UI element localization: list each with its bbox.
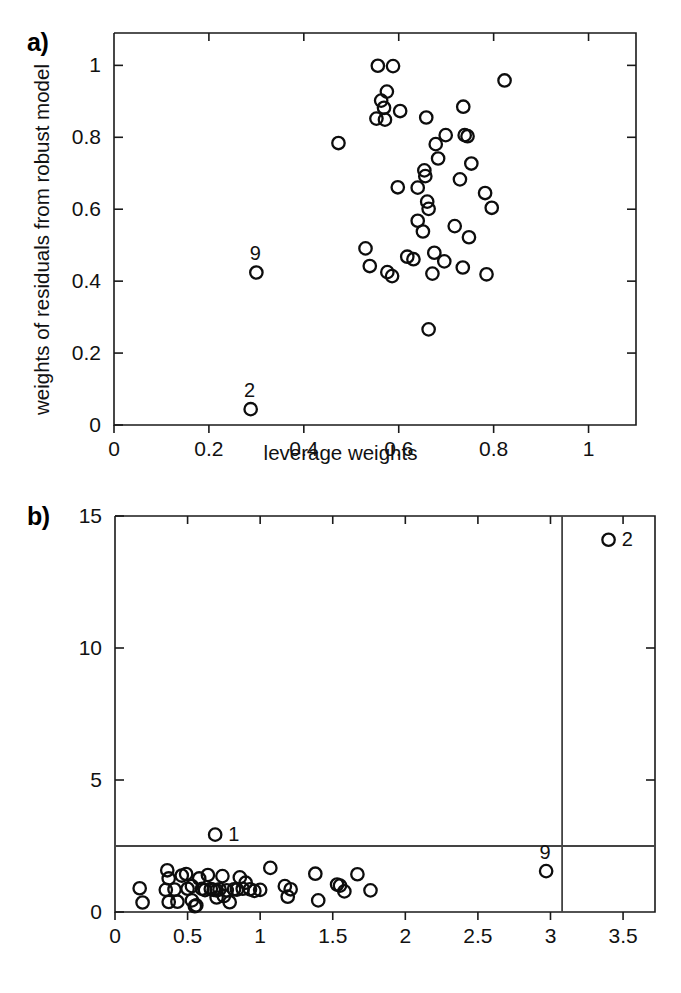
- figure-container: a) 00.20.40.60.8100.20.40.60.81 92 weigh…: [0, 0, 681, 993]
- scatter-point: [457, 101, 469, 113]
- scatter-point: [426, 267, 438, 279]
- y-tick-label: 1: [89, 53, 101, 76]
- x-tick-label: 2.5: [463, 924, 492, 947]
- panel-a-axes: [114, 33, 636, 425]
- scatter-point: [168, 883, 180, 895]
- scatter-point: [133, 882, 145, 894]
- scatter-point: [449, 220, 461, 232]
- scatter-point: [486, 202, 498, 214]
- scatter-point: [171, 896, 183, 908]
- scatter-point: [430, 138, 442, 150]
- panel-b: b) 00.511.522.533.5051015 219 standardiz…: [0, 470, 681, 993]
- y-tick-label: 0.8: [72, 125, 101, 148]
- scatter-point: [438, 255, 450, 267]
- x-tick-label: 0: [109, 924, 121, 947]
- panel-b-ticks: [115, 516, 655, 920]
- panel-a-tick-labels: 00.20.40.60.8100.20.40.60.81: [72, 53, 595, 460]
- scatter-point: [602, 534, 614, 546]
- scatter-point: [209, 828, 221, 840]
- y-tick-label: 5: [90, 768, 102, 791]
- y-tick-label: 0.2: [72, 341, 101, 364]
- scatter-point: [372, 60, 384, 72]
- x-tick-label: 1: [254, 924, 266, 947]
- scatter-point: [136, 896, 148, 908]
- point-label: 9: [540, 841, 551, 863]
- x-tick-label: 3: [545, 924, 557, 947]
- scatter-point: [412, 181, 424, 193]
- scatter-point: [381, 85, 393, 97]
- scatter-point: [394, 105, 406, 117]
- panel-a-y-axis-title: weights of residuals from robust model: [30, 64, 54, 415]
- y-tick-label: 0: [89, 413, 101, 436]
- scatter-point: [417, 225, 429, 237]
- scatter-point: [216, 870, 228, 882]
- scatter-point: [379, 113, 391, 125]
- scatter-point: [359, 242, 371, 254]
- panel-a-x-axis-title: leverage weights: [0, 441, 681, 465]
- scatter-point: [364, 260, 376, 272]
- panel-b-point-labels: 219: [228, 528, 633, 863]
- scatter-point: [332, 137, 344, 149]
- panel-b-plot: 00.511.522.533.5051015 219: [0, 470, 681, 993]
- point-label: 2: [244, 379, 255, 401]
- scatter-point: [457, 261, 469, 273]
- scatter-point: [387, 60, 399, 72]
- scatter-point: [351, 868, 363, 880]
- panel-b-axes: [115, 516, 655, 912]
- panel-a: a) 00.20.40.60.8100.20.40.60.81 92 weigh…: [0, 0, 681, 470]
- panel-a-plot: 00.20.40.60.8100.20.40.60.81 92: [0, 0, 681, 470]
- y-tick-label: 15: [79, 504, 102, 527]
- scatter-point: [463, 231, 475, 243]
- scatter-point: [244, 403, 256, 415]
- panel-b-reference-lines: [115, 516, 655, 912]
- x-tick-label: 2: [399, 924, 411, 947]
- y-tick-label: 10: [79, 636, 102, 659]
- x-tick-label: 0.5: [173, 924, 202, 947]
- panel-a-data-points: [244, 60, 510, 416]
- scatter-point: [422, 323, 434, 335]
- x-tick-label: 3.5: [608, 924, 637, 947]
- scatter-point: [454, 173, 466, 185]
- point-label: 9: [250, 242, 261, 264]
- x-tick-label: 1.5: [318, 924, 347, 947]
- scatter-point: [420, 111, 432, 123]
- scatter-point: [392, 181, 404, 193]
- panel-a-ticks: [114, 33, 636, 433]
- scatter-point: [312, 894, 324, 906]
- scatter-point: [498, 74, 510, 86]
- scatter-point: [264, 862, 276, 874]
- point-label: 1: [228, 823, 239, 845]
- scatter-point: [364, 884, 376, 896]
- y-tick-label: 0: [90, 900, 102, 923]
- scatter-point: [465, 157, 477, 169]
- scatter-point: [250, 266, 262, 278]
- scatter-point: [480, 268, 492, 280]
- point-label: 2: [622, 528, 633, 550]
- scatter-point: [309, 868, 321, 880]
- y-tick-label: 0.4: [72, 269, 102, 292]
- y-tick-label: 0.6: [72, 197, 101, 220]
- scatter-point: [432, 152, 444, 164]
- scatter-point: [540, 865, 552, 877]
- scatter-point: [479, 187, 491, 199]
